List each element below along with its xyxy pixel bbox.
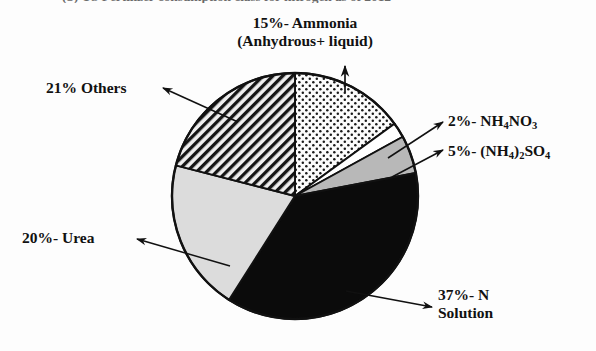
pie-label-ammonia-line2: (Anhydrous+ liquid) [200,32,410,50]
figure-canvas: (b) US Fertilizer consumption class for … [0,0,596,351]
pie-label-nsolution: 37%- N Solution [438,286,493,322]
pie-label-nsolution-line1: 37%- N [438,286,493,304]
pie-label-nsolution-line2: Solution [438,304,493,322]
pie-label-ammonia: 15%- Ammonia (Anhydrous+ liquid) [200,14,410,50]
pie-label-others: 21% Others [46,79,127,97]
pie-slice-group [172,73,418,319]
pie-label-nh4no3-mid: NO [509,112,532,129]
pie-label-nh4no3: 2%- NH4NO3 [448,112,537,130]
pie-label-nh42so4-mid2: SO [524,142,545,159]
pie-label-nh42so4-sub3: 4 [545,150,550,161]
pie-label-nh42so4: 5%- (NH4)2SO4 [448,142,550,160]
pie-label-nh4no3-prefix: 2%- NH [448,112,504,129]
pie-label-urea: 20%- Urea [22,229,94,247]
pie-chart-svg [0,0,596,351]
pie-label-nh4no3-sub2: 3 [532,120,537,131]
pie-label-ammonia-line1: 15%- Ammonia [200,14,410,32]
pie-label-nh42so4-prefix: 5%- (NH [448,142,509,159]
